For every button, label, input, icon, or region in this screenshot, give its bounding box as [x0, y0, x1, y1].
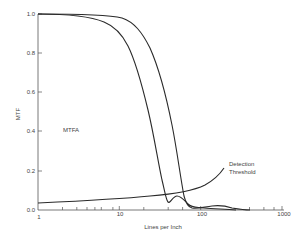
y-tick-label: 0.2 — [27, 168, 36, 174]
detection-threshold-curve — [38, 168, 224, 203]
y-tick-label: 1.0 — [27, 11, 36, 17]
y-tick-label: 0.0 — [27, 207, 36, 213]
x-tick-label: 10 — [117, 211, 124, 217]
y-tick-label: 0.6 — [27, 89, 36, 95]
y-axis-title: MTF — [15, 108, 21, 121]
mtf-curve-b — [38, 14, 250, 210]
threshold-label-line2: Threshold — [229, 169, 256, 175]
threshold-label-line1: Detection — [229, 161, 254, 167]
x-ticks: 1 10 100 1000 — [37, 206, 291, 220]
mtf-chart: 1.0 0.8 0.6 0.4 0.2 0.0 1 10 100 1000 MT… — [0, 0, 304, 240]
y-tick-label: 0.4 — [27, 128, 36, 134]
mtf-curve-a — [38, 14, 236, 210]
x-tick-label: 100 — [197, 211, 208, 217]
x-axis-title: Lines per Inch — [144, 224, 182, 230]
y-ticks: 1.0 0.8 0.6 0.4 0.2 0.0 — [27, 11, 42, 213]
x-tick-label: 1 — [37, 214, 41, 220]
axes — [38, 14, 284, 210]
x-tick-label: 1000 — [277, 211, 291, 217]
mtfa-label: MTFA — [63, 127, 79, 133]
y-tick-label: 0.8 — [27, 50, 36, 56]
